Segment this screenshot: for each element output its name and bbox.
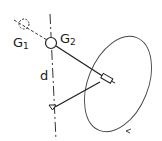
g2-label-main: G (60, 31, 70, 46)
g1-label: G1 (13, 36, 29, 51)
center-body-icon (101, 73, 116, 85)
g1-label-sub: 1 (23, 41, 29, 51)
axis-d-line (50, 14, 56, 140)
g1-label-main: G (13, 35, 23, 50)
d-label-text: d (40, 68, 48, 83)
rotation-arrow-icon (126, 129, 131, 133)
diagram-canvas (0, 0, 162, 141)
g2-to-center-line (56, 46, 104, 77)
d-label: d (40, 69, 48, 82)
g2-label: G2 (60, 32, 76, 47)
pivot-to-center-line (55, 82, 100, 107)
g2-circle (46, 38, 57, 49)
g2-label-sub: 2 (70, 37, 76, 47)
rotation-ellipse (71, 26, 162, 141)
